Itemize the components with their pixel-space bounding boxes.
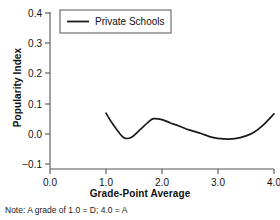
x-tick-label-2: 2.0 (155, 177, 169, 188)
y-axis-title: Popularity Index (12, 40, 23, 136)
chart-footnote: Note: A grade of 1.0 = D; 4.0 = A (5, 205, 127, 215)
x-axis-title: Grade-Point Average (0, 188, 280, 199)
y-tick-label-1: 0.3 (28, 38, 42, 49)
legend[interactable]: Private Schools (60, 10, 171, 33)
y-tick-marks (45, 13, 50, 164)
chart-figure: 0.4 0.3 0.2 0.1 0.0 −0.1 0.0 1.0 2.0 3.0… (0, 0, 280, 220)
x-tick-marks (50, 169, 274, 174)
y-tick-label-4: 0.0 (28, 129, 42, 140)
series-line-private-schools (106, 113, 274, 139)
y-tick-label-0: 0.4 (28, 8, 42, 19)
y-tick-label-2: 0.2 (28, 68, 42, 79)
legend-label-private-schools: Private Schools (95, 16, 164, 27)
y-tick-label-5: −0.1 (22, 159, 42, 170)
plot-area: 0.4 0.3 0.2 0.1 0.0 −0.1 0.0 1.0 2.0 3.0… (0, 0, 280, 220)
x-tick-label-0: 0.0 (43, 177, 57, 188)
x-tick-label-3: 3.0 (211, 177, 225, 188)
x-tick-label-1: 1.0 (99, 177, 113, 188)
x-tick-label-4: 4.0 (267, 177, 280, 188)
y-tick-label-3: 0.1 (28, 99, 42, 110)
